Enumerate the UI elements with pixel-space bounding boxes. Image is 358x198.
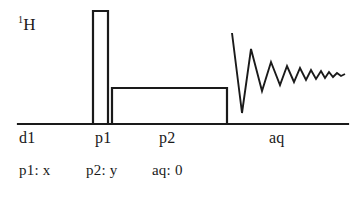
- pulse-sequence-diagram: 1H d1 p1 p2 aq p1: x p2: y aq: 0: [0, 0, 358, 198]
- sequence-traces: [18, 11, 348, 124]
- phase-label-aq: aq: 0: [152, 163, 183, 178]
- nucleus-symbol: H: [23, 15, 35, 34]
- phase-label-p2: p2: y: [86, 163, 117, 178]
- fid-trace: [232, 33, 345, 113]
- p2-pulse-rect: [112, 88, 227, 124]
- channel-nucleus-label: 1H: [18, 15, 36, 33]
- event-label-d1: d1: [19, 130, 35, 146]
- p1-pulse-rect: [93, 11, 108, 124]
- phase-label-p1: p1: x: [19, 163, 50, 178]
- event-label-aq: aq: [269, 130, 285, 146]
- event-label-p1: p1: [95, 130, 111, 146]
- event-label-p2: p2: [159, 130, 175, 146]
